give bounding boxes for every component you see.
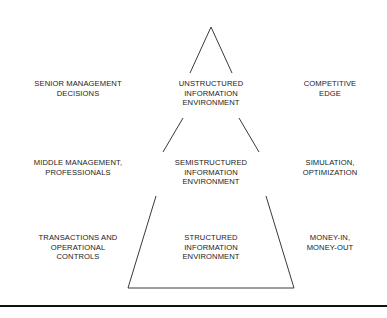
label-line: OPERATIONAL — [8, 243, 148, 253]
label-line: ENVIRONMENT — [152, 177, 270, 187]
pyramid-edge-right-upper — [211, 27, 232, 73]
label-line: INFORMATION — [152, 243, 270, 253]
label-money-in-money-out: MONEY-IN, MONEY-OUT — [278, 233, 382, 252]
pyramid-edge-left-middle — [163, 118, 183, 152]
label-line: MONEY-IN, — [278, 233, 382, 243]
label-line: EDGE — [278, 89, 382, 99]
label-line: PROFESSIONALS — [8, 168, 148, 178]
label-line: SIMULATION, — [278, 158, 382, 168]
label-structured-information-environment: STRUCTURED INFORMATION ENVIRONMENT — [152, 233, 270, 262]
label-middle-management-professionals: MIDDLE MANAGEMENT, PROFESSIONALS — [8, 158, 148, 177]
bottom-divider-rule — [0, 305, 387, 307]
label-line: TRANSACTIONS AND — [8, 233, 148, 243]
label-line: INFORMATION — [152, 89, 270, 99]
label-line: SEMISTRUCTURED — [152, 158, 270, 168]
label-line: MONEY-OUT — [278, 243, 382, 253]
label-line: INFORMATION — [152, 168, 270, 178]
label-line: OPTIMIZATION — [278, 168, 382, 178]
label-simulation-optimization: SIMULATION, OPTIMIZATION — [278, 158, 382, 177]
pyramid-diagram: SENIOR MANAGEMENT DECISIONS UNSTRUCTURED… — [0, 0, 387, 318]
label-line: UNSTRUCTURED — [152, 79, 270, 89]
label-line: STRUCTURED — [152, 233, 270, 243]
label-line: SENIOR MANAGEMENT — [8, 79, 148, 89]
label-line: DECISIONS — [8, 89, 148, 99]
label-line: CONTROLS — [8, 252, 148, 262]
label-line: COMPETITIVE — [278, 79, 382, 89]
pyramid-edge-right-middle — [239, 118, 259, 152]
pyramid-edge-left-upper — [190, 27, 211, 73]
label-senior-management-decisions: SENIOR MANAGEMENT DECISIONS — [8, 79, 148, 98]
label-line: MIDDLE MANAGEMENT, — [8, 158, 148, 168]
label-competitive-edge: COMPETITIVE EDGE — [278, 79, 382, 98]
label-unstructured-information-environment: UNSTRUCTURED INFORMATION ENVIRONMENT — [152, 79, 270, 108]
label-line: ENVIRONMENT — [152, 98, 270, 108]
label-transactions-operational-controls: TRANSACTIONS AND OPERATIONAL CONTROLS — [8, 233, 148, 262]
label-line: ENVIRONMENT — [152, 252, 270, 262]
label-semistructured-information-environment: SEMISTRUCTURED INFORMATION ENVIRONMENT — [152, 158, 270, 187]
